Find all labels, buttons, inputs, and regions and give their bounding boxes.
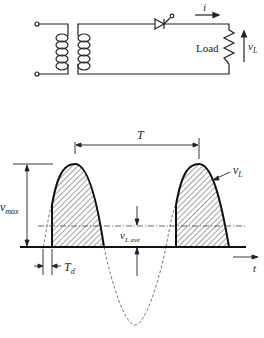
diagram: Load i vL: [0, 0, 264, 338]
secondary-wire-bottom: [78, 64, 229, 74]
current-label: i: [203, 1, 206, 13]
load-wire-top: [164, 24, 229, 30]
load-resistor-icon: [224, 30, 234, 64]
input-terminal-bottom: [35, 72, 39, 76]
load-label: Load: [196, 42, 219, 54]
vl-pointer: [213, 172, 230, 180]
vmax-label: vmax: [0, 200, 19, 216]
delay-dimension: [34, 249, 61, 275]
vl-label: vL: [233, 163, 243, 179]
scr-thyristor-icon: [155, 14, 174, 29]
waveform: [13, 138, 258, 325]
time-label: t: [253, 262, 257, 274]
primary-lead-bottom: [39, 64, 68, 74]
delay-label: Td: [64, 260, 76, 276]
transformer-secondary-coil-icon: [78, 34, 90, 70]
transformer-primary-coil-icon: [56, 34, 68, 70]
vlave-label: vL ave: [120, 229, 140, 244]
time-axis-arrow-icon: [233, 255, 258, 259]
current-arrow-icon: [195, 13, 219, 18]
vmax-dimension: [13, 164, 53, 246]
conduction-lobe-1: [52, 164, 104, 247]
period-label: T: [137, 128, 145, 142]
voltage-arrow-icon: [242, 31, 247, 62]
secondary-wire-top: [78, 24, 155, 36]
input-terminal-top: [35, 22, 39, 26]
voltage-label: vL: [248, 40, 258, 55]
